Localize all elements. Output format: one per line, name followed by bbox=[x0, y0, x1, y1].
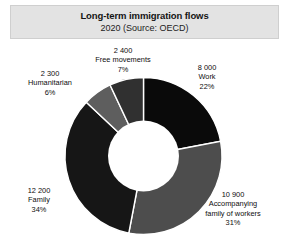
slice-percent-free-movements: 7% bbox=[86, 65, 160, 74]
slice-value-work: 8 000 bbox=[176, 63, 238, 72]
slice-name-family: Family bbox=[4, 195, 74, 204]
slice-label-humanitarian: 2 300 Humanitarian 6% bbox=[14, 69, 86, 97]
slice-name-free-movements: Free movements bbox=[86, 55, 160, 64]
slice-percent-family: 34% bbox=[4, 205, 74, 214]
chart-figure: Long-term immigration flows 2020 (Source… bbox=[0, 0, 289, 248]
slice-percent-humanitarian: 6% bbox=[14, 88, 86, 97]
slice-name-accompanying: Accompanying bbox=[186, 199, 280, 208]
slice-label-free-movements: 2 400 Free movements 7% bbox=[86, 46, 160, 74]
slice-percent-accompanying: 31% bbox=[186, 218, 280, 227]
slice-name-humanitarian: Humanitarian bbox=[14, 78, 86, 87]
slice-value-family: 12 200 bbox=[4, 186, 74, 195]
slice-label-accompanying-family-of-workers: 10 900 Accompanying family of workers 31… bbox=[186, 190, 280, 228]
slice-value-humanitarian: 2 300 bbox=[14, 69, 86, 78]
slice-label-work: 8 000 Work 22% bbox=[176, 63, 238, 91]
slice-value-accompanying: 10 900 bbox=[186, 190, 280, 199]
donut-hole bbox=[108, 121, 179, 192]
slice-percent-work: 22% bbox=[176, 82, 238, 91]
slice-name-accompanying-2: family of workers bbox=[186, 209, 280, 218]
slice-label-family: 12 200 Family 34% bbox=[4, 186, 74, 214]
slice-value-free-movements: 2 400 bbox=[86, 46, 160, 55]
slice-name-work: Work bbox=[176, 72, 238, 81]
